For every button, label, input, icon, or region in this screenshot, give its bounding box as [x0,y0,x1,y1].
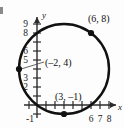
y-tick-label: 5 [23,55,28,65]
circle-graph-figure: 9 8 6 5 3 2 -1 6 7 8 y x (6, 8) (–2, 4) … [0,0,124,128]
x-axis-arrow-icon [110,102,116,108]
coordinate-plane-svg: 9 8 6 5 3 2 -1 6 7 8 y x (6, 8) (–2, 4) … [0,0,124,128]
y-tick-label: 2 [23,82,28,92]
point-label-neg2-4: (–2, 4) [45,57,72,69]
point-label-6-8: (6, 8) [88,13,110,25]
point-marker [16,66,22,72]
point-label-3-neg1: (3, –1) [55,91,82,103]
y-tick-label: 8 [23,28,28,38]
point-marker [88,30,94,36]
x-tick-label: -1 [26,114,34,124]
y-axis-name-label: y [41,10,46,20]
x-tick-label: 7 [98,114,103,124]
x-axis-name-label: x [117,102,122,112]
y-axis-arrow-icon [34,17,40,23]
x-tick-label: 8 [107,114,112,124]
point-marker [61,111,67,117]
x-tick-label: 6 [89,114,94,124]
